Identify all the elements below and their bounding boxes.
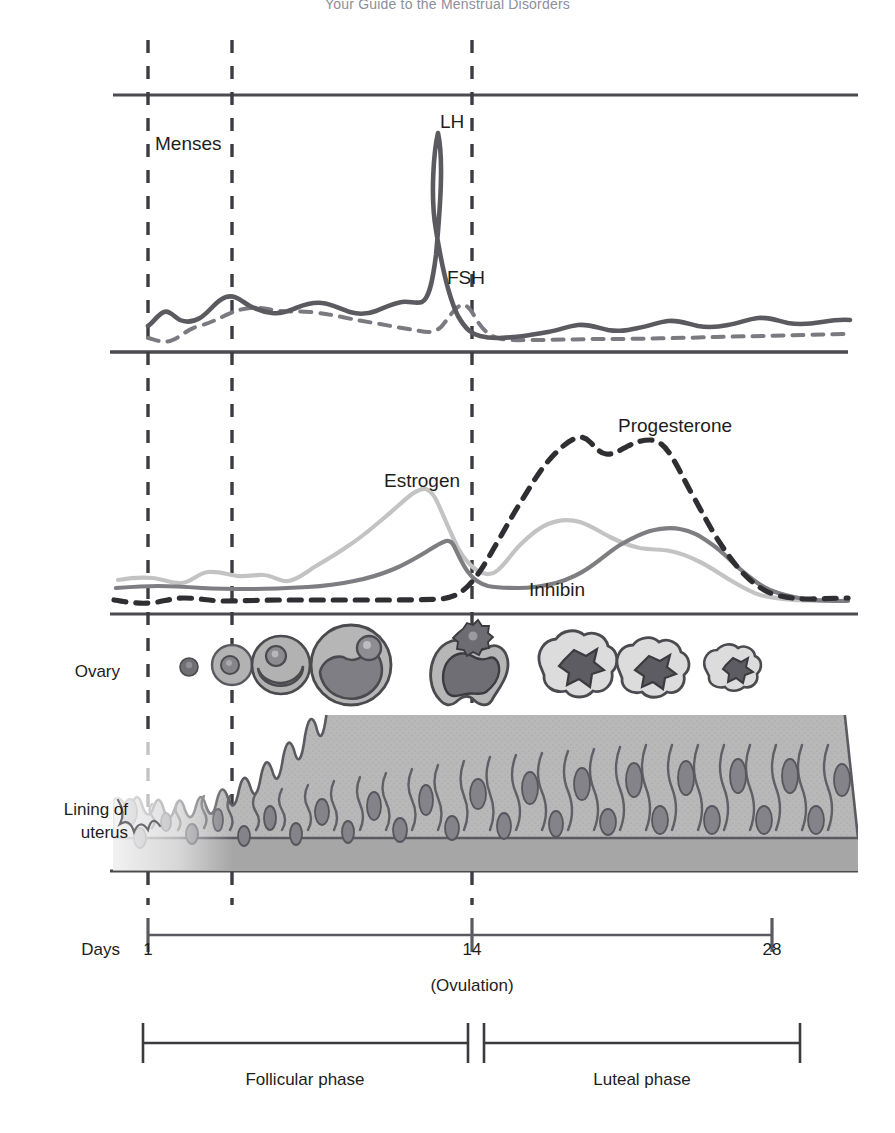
lh-curve [148,133,850,338]
day-tick-label-1: 1 [128,940,168,960]
uterus-row-label-line1: Lining of [10,798,128,821]
uterus-row-label-line2: uterus [10,821,128,844]
lh-label: LH [440,111,464,132]
uterus-row-label: Lining of uterus [10,798,128,844]
ovary-stage-ovulation [431,620,508,705]
figure-canvas: LH FSH Menses Estrogen Progesterone Inhi… [0,0,895,1133]
progesterone-label: Progesterone [618,415,732,436]
follicular-phase-label: Follicular phase [205,1070,405,1090]
fsh-label: FSH [447,267,485,288]
ovary-stage-primordial-follicle [180,658,198,676]
ovary-stage-secondary-follicle [252,636,310,694]
menses-label: Menses [155,133,222,154]
ovary-panel [180,620,761,705]
gonadotropin-panel: LH FSH Menses [148,111,850,342]
days-row-label: Days [10,940,120,960]
ovary-row-label: Ovary [10,662,120,682]
menstrual-cycle-figure: Your Guide to the Menstrual Disorders [0,0,895,1133]
ovary-stage-graafian-follicle [311,625,391,705]
phase-bar [143,1023,800,1063]
ovary-stage-corpus-albicans [704,644,761,690]
luteal-phase-label: Luteal phase [542,1070,742,1090]
ovary-stage-primary-follicle [212,645,252,685]
day-tick-label-28: 28 [752,940,792,960]
ovary-stage-corpus-luteum-early [539,631,617,697]
endometrium-functional-layer [113,0,858,838]
day-tick-label-14: 14 [452,940,492,960]
estrogen-label: Estrogen [384,470,460,491]
ovary-stage-corpus-luteum-mature [617,638,689,698]
progesterone-curve [114,437,848,603]
endometrium-panel [113,0,858,871]
inhibin-label: Inhibin [529,579,585,600]
menstrual-shedding [113,730,233,870]
ovarian-hormone-panel: Estrogen Progesterone Inhibin [114,415,848,603]
ovulation-label: (Ovulation) [392,976,552,996]
